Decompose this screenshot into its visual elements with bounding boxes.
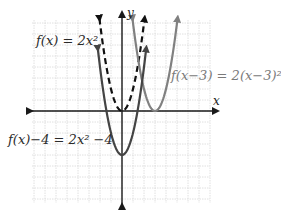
x-axis-label: x bbox=[213, 95, 220, 107]
label-f-x-minus-4: f(x)−4 = 2x² −4 bbox=[8, 133, 113, 146]
label-f-x-minus-3: f(x−3) = 2(x−3)² bbox=[171, 69, 281, 82]
label-f-x: f(x) = 2x² bbox=[36, 34, 98, 47]
y-axis-label: y bbox=[127, 7, 134, 19]
